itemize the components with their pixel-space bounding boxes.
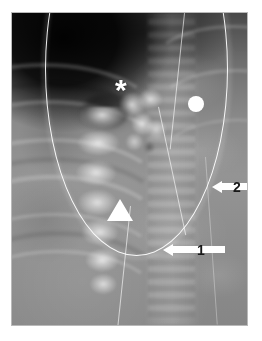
spine-shadow: [144, 13, 200, 325]
rib-shadow: [148, 25, 247, 112]
arrow-head-icon: [163, 244, 173, 256]
gas-pocket: [83, 94, 130, 128]
rib-shadow: [12, 138, 166, 252]
catheter-line: [169, 13, 185, 150]
rib-shadow: [12, 250, 164, 325]
arrow-marker-2: 2: [212, 180, 247, 193]
catheter-line: [158, 106, 187, 234]
arrow-head-icon: [212, 181, 222, 193]
rib-shadow: [12, 100, 166, 214]
intercostal-shadow: [12, 82, 165, 198]
soft-tissue-texture: [12, 13, 247, 325]
arrow-shaft: 2: [222, 183, 247, 190]
triangle-marker: [107, 199, 133, 221]
intercostal-shadow: [12, 157, 168, 273]
arrow-label-1: 1: [197, 242, 205, 256]
arrow-marker-1: 1: [163, 243, 225, 256]
arc-contour-line: [45, 13, 228, 256]
vertebral-endplates: [148, 19, 195, 319]
radiograph-figure: * 2 1: [0, 0, 262, 341]
intercostal-shadow: [12, 231, 168, 325]
radiograph-frame: * 2 1: [11, 12, 248, 326]
rib-shadow: [153, 69, 247, 156]
asterisk-marker: *: [115, 75, 127, 105]
arc-contour-halo: [43, 13, 231, 259]
rib-shadow: [12, 213, 164, 325]
radiograph-image: * 2 1: [12, 13, 247, 325]
catheter-line: [116, 206, 130, 325]
circle-marker: [188, 96, 204, 112]
rib-shadow: [12, 63, 161, 177]
arrow-shaft: 1: [173, 246, 225, 253]
arrow-label-2: 2: [233, 179, 241, 193]
contrast-mass: [115, 88, 171, 157]
rib-shadow: [12, 175, 166, 289]
contrast-filled-lumen: [68, 107, 129, 307]
